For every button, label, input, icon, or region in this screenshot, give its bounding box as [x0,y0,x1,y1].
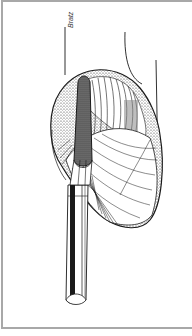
artist-signature: Bratz [67,12,74,28]
surgical-illustration [0,0,192,336]
